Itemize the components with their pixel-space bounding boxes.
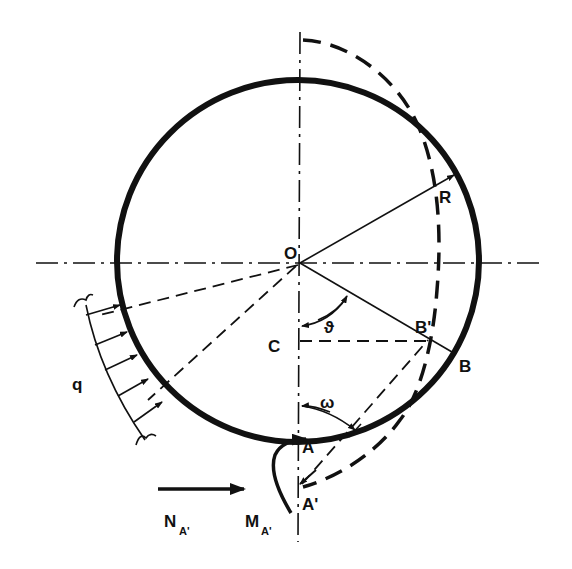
label-A-prime: A' — [302, 495, 318, 514]
label-O: O — [284, 244, 297, 263]
label-M: M — [245, 512, 259, 531]
vertical-centerline — [298, 32, 300, 542]
radius-R-arrow — [300, 175, 454, 263]
dashed-ray-upper — [100, 265, 298, 315]
ring — [117, 80, 479, 442]
distributed-load-q — [74, 295, 162, 445]
label-B-prime: B' — [415, 318, 431, 337]
label-q: q — [72, 375, 82, 394]
label-theta: ϑ — [324, 318, 334, 337]
label-B: B — [459, 357, 471, 376]
label-N-subscript: A' — [179, 525, 190, 537]
radial-line-OB — [300, 263, 452, 352]
label-R: R — [439, 188, 451, 207]
label-A: A — [302, 438, 314, 457]
ring-diagram: O R C A A' B B' q ϑ ω N A' M A' — [0, 0, 572, 569]
dashed-ray-lower — [148, 266, 296, 400]
label-N: N — [164, 512, 176, 531]
label-C: C — [268, 337, 280, 356]
dashed-chord-A-prime-B-prime — [302, 340, 428, 484]
label-omega: ω — [320, 393, 334, 412]
label-M-subscript: A' — [261, 525, 272, 537]
